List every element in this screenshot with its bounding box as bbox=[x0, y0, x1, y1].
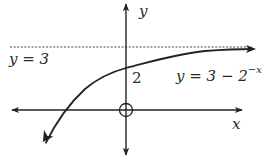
x-axis-label: x bbox=[232, 117, 240, 132]
y-intercept-label: 2 bbox=[132, 71, 142, 86]
function-label-exponent: −x bbox=[248, 64, 262, 75]
y-axis-label: y bbox=[139, 4, 147, 19]
function-label-base: y = 3 − 2 bbox=[176, 67, 248, 85]
asymptote-label: y = 3 bbox=[9, 52, 49, 67]
function-curve bbox=[46, 49, 254, 143]
function-label: y = 3 − 2−x bbox=[176, 69, 262, 84]
